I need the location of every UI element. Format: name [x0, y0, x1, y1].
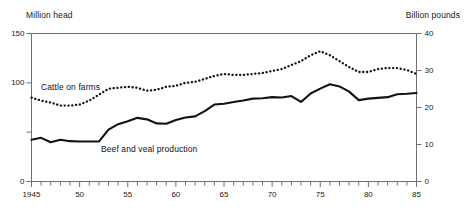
y-right-tick-label: 10 [425, 140, 451, 149]
axis-frame [32, 34, 417, 182]
x-tick-label: 55 [111, 190, 145, 199]
x-tick-label: 80 [351, 190, 385, 199]
y-right-tick-label: 0 [425, 177, 451, 186]
x-tick-label: 70 [255, 190, 289, 199]
series-line-beef-and-veal-production [32, 84, 417, 142]
series-label-cattle-on-farms: Cattle on farms [41, 82, 100, 92]
tick-marks [27, 34, 422, 188]
x-tick-label: 60 [159, 190, 193, 199]
y-right-tick-label: 30 [425, 66, 451, 75]
x-tick-label: 1945 [15, 190, 49, 199]
chart-container: Million head Billion pounds Cattle on fa… [0, 0, 466, 211]
series-label-beef-and-veal-production: Beef and veal production [101, 144, 197, 154]
y-right-tick-label: 20 [425, 103, 451, 112]
series-line-cattle-on-farms [32, 51, 417, 105]
y-left-tick-label: 0 [1, 177, 25, 186]
x-tick-label: 50 [63, 190, 97, 199]
plot-area [0, 0, 466, 211]
x-tick-label: 75 [303, 190, 337, 199]
y-left-tick-label: 100 [1, 78, 25, 87]
x-tick-label: 65 [207, 190, 241, 199]
x-tick-label: 85 [400, 190, 434, 199]
y-left-tick-label: 150 [1, 29, 25, 38]
y-right-tick-label: 40 [425, 29, 451, 38]
